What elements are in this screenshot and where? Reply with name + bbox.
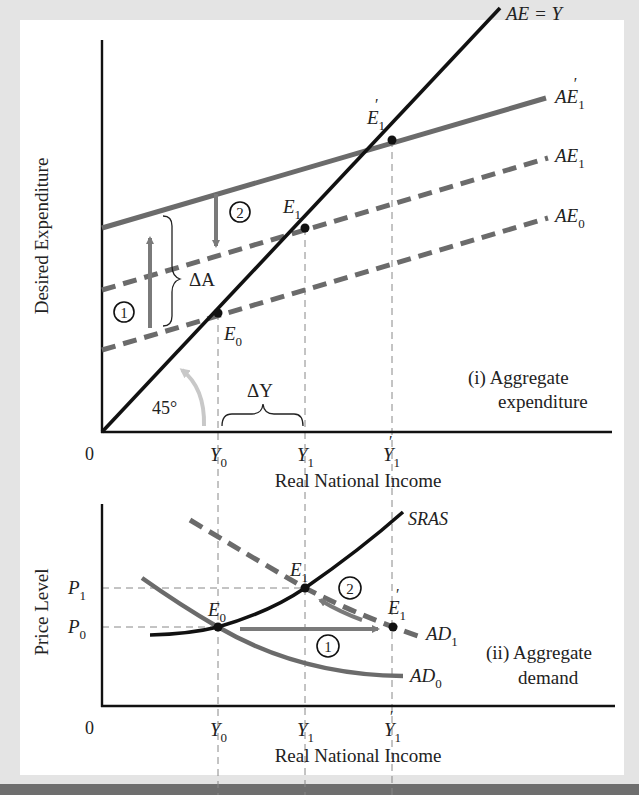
ae0-line — [102, 218, 548, 350]
ad1-label: AD1 — [424, 623, 458, 649]
top-x-axis-title: Real National Income — [275, 470, 442, 491]
angle-label: 45° — [152, 398, 177, 418]
e1-point — [301, 224, 310, 233]
step-1-label-top: 1 — [120, 305, 128, 321]
ae0-label: AE0 — [553, 205, 585, 231]
step-2-label-top: 2 — [236, 205, 244, 221]
aggregate-demand-chart: 1 2 Price Level Real National Income 0 P… — [31, 504, 615, 766]
step-2-label-bottom: 2 — [346, 581, 354, 597]
p0-tick: P0 — [67, 616, 86, 642]
e1-prime-point — [388, 136, 397, 145]
ad0-label: AD0 — [408, 665, 442, 691]
delta-a-label: ΔA — [189, 269, 215, 290]
top-e0-label: E0 — [223, 323, 242, 349]
bottom-y1-tick: Y1 — [297, 719, 314, 745]
vertical-guides — [218, 140, 392, 795]
bottom-y1-prime-tick: Y1′ — [384, 708, 401, 745]
bottom-e1-prime-label: E1′ — [387, 586, 406, 623]
bottom-y0-tick: Y0 — [210, 719, 227, 745]
top-panel-title-line2: expenditure — [498, 391, 588, 412]
top-origin-label: 0 — [85, 444, 94, 464]
top-y-axis-title: Desired Expenditure — [31, 158, 52, 315]
ae-equals-y-label: AE = Y — [504, 3, 565, 24]
top-y0-tick: Y0 — [210, 444, 227, 470]
p1-tick: P1 — [67, 577, 86, 603]
top-y1-prime-tick: Y1′ — [383, 433, 400, 470]
ae1-prime-label: AE1′ — [553, 75, 585, 112]
top-panel-title-line1: (i) Aggregate — [468, 367, 569, 389]
ae1-line — [102, 158, 548, 290]
bottom-panel-title-line1: (ii) Aggregate — [486, 642, 592, 664]
angle-arc-arrow — [182, 370, 204, 426]
bottom-x-axis-title: Real National Income — [275, 745, 442, 766]
bottom-panel-title-line2: demand — [518, 667, 579, 688]
sras-label: SRAS — [408, 509, 448, 529]
ae1-label: AE1 — [553, 145, 585, 171]
delta-y-brace — [222, 404, 303, 426]
e0-point — [214, 309, 223, 318]
ae1-prime-line — [102, 98, 546, 228]
top-y1-tick: Y1 — [297, 444, 314, 470]
bottom-e1-prime-point — [389, 623, 398, 632]
top-e1-prime-label: E1′ — [366, 96, 385, 133]
step-1-label-bottom: 1 — [324, 639, 332, 655]
figure-svg: 1 2 Desired Expenditure Real National In… — [0, 0, 639, 795]
delta-y-label: ΔY — [247, 380, 273, 401]
bottom-y-axis-title: Price Level — [31, 568, 52, 655]
bottom-origin-label: 0 — [85, 718, 94, 738]
top-e1-label: E1 — [282, 196, 301, 222]
